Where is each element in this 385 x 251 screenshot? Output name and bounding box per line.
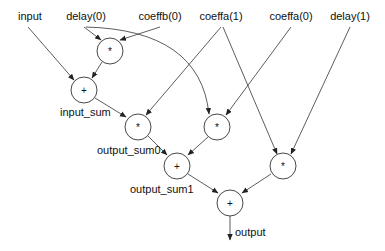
edge-m1-a1 — [92, 62, 102, 78]
edge-input-a1 — [28, 27, 74, 80]
op-symbol: * — [136, 122, 140, 133]
input-label-coeffb0: coeffb(0) — [138, 10, 181, 22]
edge-coeffa0-m3 — [226, 27, 291, 115]
op-symbol: * — [281, 161, 285, 172]
edge-coeffb0-m1 — [120, 27, 160, 40]
edge-delay0-m1 — [84, 27, 101, 40]
input-label-delay1: delay(1) — [330, 10, 370, 22]
edges — [28, 27, 350, 240]
input-label-delay0: delay(0) — [66, 10, 106, 22]
node-add-3: + — [217, 190, 243, 216]
node-multiply-1: * — [97, 38, 123, 64]
input-label-input: input — [18, 10, 42, 22]
label-input-sum: input_sum — [60, 106, 111, 118]
op-symbol: * — [215, 122, 219, 133]
input-label-coeffa0: coeffa(0) — [269, 10, 312, 22]
edge-delay1-m4 — [291, 27, 350, 154]
edge-m3-a2 — [188, 137, 208, 155]
label-output-sum0: output_sum0 — [97, 144, 161, 156]
label-output: output — [235, 226, 266, 238]
node-add-1: + — [71, 77, 97, 103]
op-symbol: * — [108, 46, 112, 57]
edge-m4-a3 — [242, 174, 271, 193]
edge-coeffa1-m4 — [223, 27, 277, 154]
node-multiply-3: * — [204, 114, 230, 140]
op-symbol: + — [174, 161, 180, 172]
input-label-coeffa1: coeffa(1) — [199, 10, 242, 22]
node-multiply-2: * — [125, 114, 151, 140]
label-output-sum1: output_sum1 — [130, 183, 194, 195]
node-multiply-4: * — [270, 153, 296, 179]
edge-coeffa1-m2 — [146, 27, 221, 115]
dataflow-diagram: input delay(0) coeffb(0) coeffa(1) coeff… — [0, 0, 385, 251]
op-symbol: + — [227, 198, 233, 209]
op-symbol: + — [81, 85, 87, 96]
node-add-2: + — [164, 153, 190, 179]
